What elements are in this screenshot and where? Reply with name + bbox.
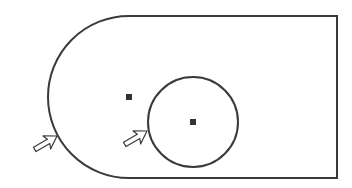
outer-shape-outline[interactable] [48,16,337,178]
pointer-arrow-icon [121,125,151,151]
circle-center-marker [190,119,196,125]
diagram-canvas [0,0,352,188]
arc-center-marker [126,94,132,100]
